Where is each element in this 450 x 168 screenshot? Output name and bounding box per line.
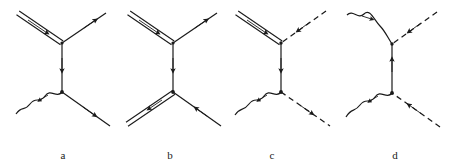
panel-d-upper-right-arrow	[408, 23, 421, 33]
panel-d-upper-left-leg	[347, 12, 392, 44]
panel-c-lower-right-arrow	[300, 105, 313, 114]
panel-c-diagram	[235, 11, 330, 126]
panel-b-upper-right-arrow	[195, 19, 208, 28]
panel-d-lower-right-arrow	[408, 104, 421, 113]
panel-b-lower-right-arrow	[195, 108, 208, 117]
panel-a-diagram	[16, 11, 110, 126]
panel-a-lower-left-leg	[16, 92, 62, 114]
panel-label-b: b	[160, 149, 180, 161]
panel-d-upper-vertex	[390, 42, 393, 45]
panel-c-upper-right-arrow	[297, 22, 310, 32]
panel-a-lower-right-leg	[62, 92, 110, 126]
panel-c-lower-left-leg	[235, 92, 281, 115]
panel-a-lower-left-arrow	[39, 95, 49, 101]
panel-b-upper-right-leg	[173, 13, 217, 43]
panel-a-upper-left-arrow	[28, 20, 48, 34]
panel-label-d: d	[385, 149, 405, 161]
figure-root: a b c d	[0, 0, 450, 168]
panel-b-lower-right-leg	[173, 92, 221, 126]
panel-label-c: c	[262, 149, 282, 161]
panel-c-lower-left-arrow	[258, 95, 268, 101]
panel-c-upper-right-leg	[281, 11, 326, 43]
panel-c-lower-vertex	[279, 90, 283, 94]
panel-d-upper-right-leg	[392, 12, 437, 44]
panel-d-lower-right-leg	[392, 93, 440, 127]
panel-c-lower-right-leg	[281, 92, 330, 126]
panel-c-upper-left-arrow	[247, 20, 267, 34]
panel-b-lower-vertex	[171, 90, 175, 94]
panel-label-a: a	[53, 149, 73, 161]
panel-a-lower-vertex	[60, 90, 64, 94]
panel-a-lower-right-arrow	[83, 107, 96, 116]
panel-d-lower-vertex	[390, 91, 394, 95]
panel-a-upper-vertex	[60, 41, 63, 44]
panel-b-lower-left-leg	[126, 90, 175, 126]
panel-b-upper-vertex	[171, 41, 174, 44]
feynman-diagrams-canvas	[0, 0, 450, 168]
panel-a-upper-right-arrow	[84, 19, 97, 28]
panel-c-upper-vertex	[279, 41, 282, 44]
panel-d-lower-left-arrow	[369, 96, 379, 102]
panel-d-diagram	[346, 12, 440, 127]
panel-b-diagram	[126, 11, 221, 126]
panel-a-upper-right-leg	[62, 13, 106, 43]
panel-d-upper-left-arrow	[362, 16, 373, 20]
panel-b-upper-left-leg	[128, 11, 175, 45]
panel-d-lower-left-leg	[346, 93, 392, 117]
panel-c-upper-left-leg	[236, 11, 283, 45]
panel-b-upper-left-arrow	[139, 20, 159, 34]
panel-a-upper-left-leg	[17, 11, 64, 45]
